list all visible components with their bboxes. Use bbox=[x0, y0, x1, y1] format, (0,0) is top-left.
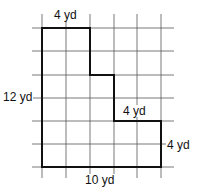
grid-lines bbox=[32, 14, 174, 178]
label-top-width: 4 yd bbox=[53, 9, 78, 21]
l-shaped-figure bbox=[42, 28, 161, 167]
label-left-height: 12 yd bbox=[2, 91, 33, 103]
label-bottom-width: 10 yd bbox=[84, 174, 115, 186]
label-step-width: 4 yd bbox=[122, 105, 147, 117]
label-right-height: 4 yd bbox=[166, 139, 191, 151]
